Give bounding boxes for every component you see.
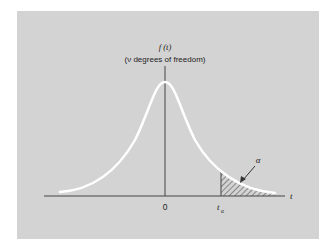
subtitle-label: (ν degrees of freedom): [125, 55, 206, 64]
density-curve: [60, 82, 275, 193]
tick-t-alpha-sub: α: [221, 208, 224, 214]
tick-zero: 0: [163, 202, 168, 212]
x-axis-label: t: [290, 191, 293, 201]
alpha-arrow: [243, 166, 255, 180]
t-distribution-chart: f (t) (ν degrees of freedom) α t 0 t α: [0, 0, 333, 249]
title-label: f (t): [159, 42, 172, 52]
tick-t-alpha: t: [217, 202, 220, 212]
alpha-label: α: [256, 155, 261, 165]
